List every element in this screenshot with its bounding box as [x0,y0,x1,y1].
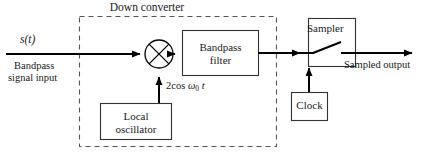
sampler-label: Sampler [307,22,344,35]
sampled-output-label: Sampled output [344,59,410,71]
bandpass-filter-label-line1: Bandpass [182,41,259,54]
lo-drive-prefix: 2cos [166,80,188,91]
local-oscillator-label-line1: Local [100,110,172,123]
figure-canvas: Down converter s(t) Bandpass signal inpu… [0,0,421,159]
lo-drive-annotation: 2cos ω0 t [166,80,205,94]
down-converter-group-label: Down converter [92,1,202,14]
clock-label: Clock [291,99,328,112]
input-signal-symbol: s(t) [20,33,35,46]
lo-drive-subscript: 0 [195,84,199,93]
input-signal-caption-line1: Bandpass [14,60,54,72]
input-signal-caption-line2: signal input [8,72,57,84]
block-diagram-graphics [0,0,421,159]
lo-drive-time-variable: t [202,80,205,91]
local-oscillator-label-line2: oscillator [100,123,172,136]
bandpass-filter-label-line2: filter [182,54,259,67]
